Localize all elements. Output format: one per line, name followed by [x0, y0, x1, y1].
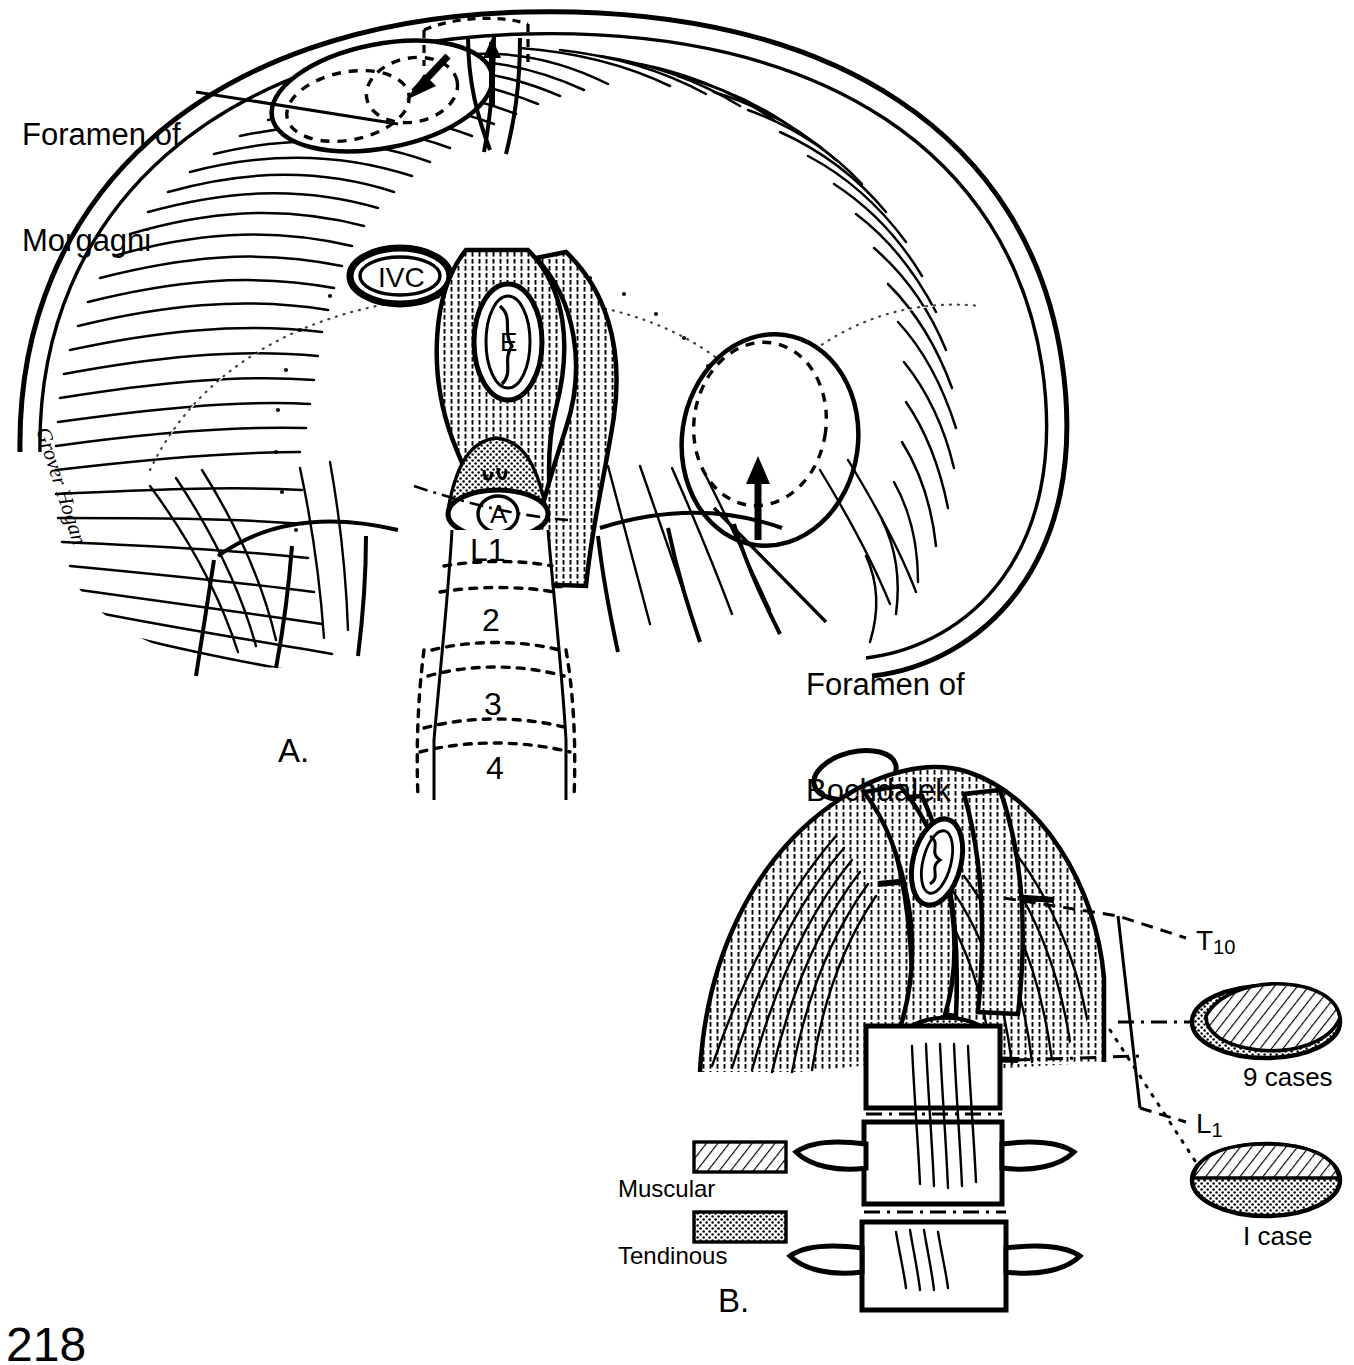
l1-main: L [1196, 1108, 1212, 1139]
label-vertebra-l1: L1 [470, 532, 506, 568]
vertebra-body-3 [862, 1222, 1006, 1310]
label-esophagus: E [500, 328, 517, 358]
bochdalek-line-1: Foramen of [806, 667, 965, 702]
t10-bracket-vertical [1118, 916, 1140, 1108]
l1-leader [1140, 1108, 1186, 1122]
l1-sub: 1 [1212, 1119, 1223, 1141]
label-t10: T10 [1196, 925, 1236, 959]
panel-b-label: B. [718, 1282, 749, 1320]
legend-label-tendinous: Tendinous [618, 1242, 727, 1269]
label-vertebra-3: 3 [484, 686, 502, 722]
morgagni-line-1: Foramen of [22, 117, 181, 152]
t10-sub: 10 [1213, 936, 1235, 958]
label-1-case: I case [1243, 1222, 1312, 1252]
vertebra-edge-left [417, 650, 424, 798]
morgagni-opening [262, 24, 502, 169]
legend-swatch-muscular [694, 1142, 786, 1172]
label-foramen-of-bochdalek: Foramen of Bochdalek [806, 596, 965, 843]
panel-a-label: A. [278, 732, 309, 770]
transverse-process-left-1 [796, 1142, 866, 1169]
page-number: 218 [6, 1318, 86, 1365]
inset-1-muscular-area [1193, 1144, 1339, 1178]
label-l1-panel-b: L1 [1196, 1108, 1223, 1142]
label-ivc: IVC [378, 262, 425, 294]
label-foramen-of-morgagni: Foramen of Morgagni [22, 46, 181, 293]
label-vertebra-4: 4 [486, 750, 504, 786]
inset-9-cases [1192, 984, 1340, 1058]
transverse-process-left-2 [790, 1246, 862, 1273]
t10-main: T [1196, 925, 1213, 956]
inset-1-case [1192, 1144, 1340, 1216]
legend-label-muscular: Muscular [618, 1175, 715, 1202]
vertebra-body-1 [866, 1026, 1000, 1108]
transverse-process-right-2 [1006, 1246, 1080, 1273]
morgagni-line-2: Morgagni [22, 223, 181, 258]
label-vertebra-2: 2 [482, 602, 500, 638]
label-aorta: A [490, 500, 507, 530]
foramen-of-morgagni-region [262, 18, 528, 168]
bochdalek-line-2: Bochdalek [806, 773, 965, 808]
transverse-process-right-1 [1002, 1142, 1074, 1169]
label-9-cases: 9 cases [1243, 1063, 1333, 1093]
legend-swatch-tendinous [694, 1212, 786, 1242]
